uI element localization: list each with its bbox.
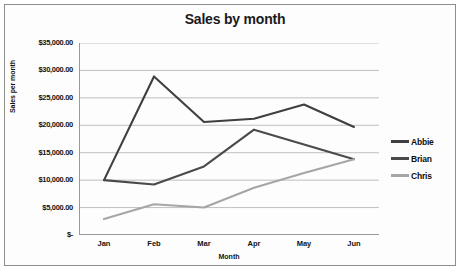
- legend-swatch-icon: [391, 140, 409, 143]
- y-tick-label: $5,000.00: [7, 203, 73, 212]
- legend-item-chris[interactable]: Chris: [391, 167, 464, 184]
- legend-swatch-icon: [391, 157, 409, 160]
- y-tick-label: $15,000.00: [7, 148, 73, 157]
- legend-label: Chris: [411, 171, 432, 181]
- plot-area: [79, 43, 379, 235]
- x-tick-label: May: [281, 239, 327, 248]
- legend-label: Abbie: [411, 137, 434, 147]
- chart-title: Sales by month: [115, 11, 355, 27]
- x-tick-label: Feb: [131, 239, 177, 248]
- x-tick-label: Apr: [231, 239, 277, 248]
- x-tick-label: Jan: [81, 239, 127, 248]
- legend-item-brian[interactable]: Brian: [391, 150, 464, 167]
- y-tick-label: $10,000.00: [7, 175, 73, 184]
- legend-item-abbie[interactable]: Abbie: [391, 133, 464, 150]
- legend-swatch-icon: [391, 174, 409, 177]
- x-axis-title: Month: [149, 253, 309, 260]
- y-axis-tick-labels: $35,000.00$30,000.00$25,000.00$20,000.00…: [5, 43, 73, 235]
- x-axis-tick-labels: JanFebMarAprMayJun: [79, 239, 379, 253]
- x-tick-label: Mar: [181, 239, 227, 248]
- legend-label: Brian: [411, 154, 432, 164]
- y-tick-label: $20,000.00: [7, 120, 73, 129]
- chart-legend: AbbieBrianChris: [391, 133, 464, 184]
- y-tick-label: $-: [7, 230, 73, 239]
- x-tick-label: Jun: [331, 239, 377, 248]
- chart-plot-svg: [79, 43, 379, 235]
- y-tick-label: $35,000.00: [7, 38, 73, 47]
- y-tick-label: $25,000.00: [7, 93, 73, 102]
- y-tick-label: $30,000.00: [7, 65, 73, 74]
- chart-container: Sales by month Sales per month $35,000.0…: [4, 4, 456, 266]
